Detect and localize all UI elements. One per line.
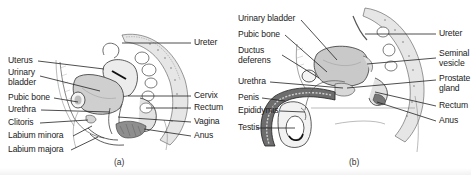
label-urethra: Urethra (8, 105, 36, 115)
label-anus-b: Anus (439, 116, 458, 126)
label-urinary-bladder: Urinary bladder (8, 68, 36, 87)
label-rectum-b: Rectum (439, 101, 468, 111)
label-cervix: Cervix (194, 91, 218, 101)
label-pubic-bone: Pubic bone (8, 93, 50, 103)
label-seminal-vesicle: Seminal vesicle (439, 49, 469, 68)
label-uterus: Uterus (8, 56, 33, 66)
male-pelvis-illustration (235, 0, 471, 175)
label-testis: Testis (238, 123, 259, 133)
label-pubic-bone-b: Pubic bone (238, 30, 280, 40)
label-ureter-a: Ureter (194, 38, 217, 48)
label-labium-majora: Labium majora (8, 145, 64, 155)
label-ductus-deferens: Ductus deferens (238, 46, 271, 65)
label-prostate-gland-line2: gland (439, 84, 470, 94)
caption-a: (a) (114, 157, 124, 167)
label-ductus-deferens-line2: deferens (238, 56, 271, 66)
label-labium-minora: Labium minora (8, 131, 64, 141)
label-epididymis: Epididymis (238, 106, 279, 116)
caption-b: (b) (349, 157, 359, 167)
label-urinary-bladder-b: Urinary bladder (238, 14, 295, 24)
label-prostate-gland: Prostate gland (439, 74, 470, 93)
label-seminal-vesicle-line2: vesicle (439, 59, 469, 69)
label-ureter-b: Ureter (439, 29, 462, 39)
label-vagina: Vagina (194, 117, 220, 127)
label-penis: Penis (238, 93, 259, 103)
label-urethra-b: Urethra (238, 77, 266, 87)
label-anus-a: Anus (194, 131, 213, 141)
bottom-edge (0, 168, 471, 175)
label-urinary-bladder-line2: bladder (8, 78, 36, 88)
panel-female-anatomy: Uterus Urinary bladder Pubic bone Urethr… (0, 0, 235, 175)
label-rectum-a: Rectum (194, 103, 223, 113)
panel-male-anatomy: Urinary bladder Pubic bone Ductus defere… (235, 0, 471, 175)
label-clitoris: Clitoris (8, 118, 33, 128)
